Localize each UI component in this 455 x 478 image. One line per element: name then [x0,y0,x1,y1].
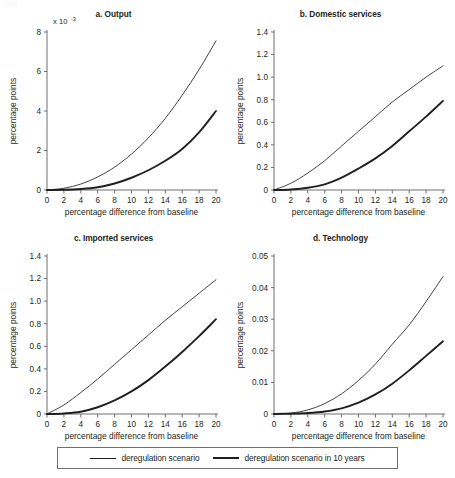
svg-text:2: 2 [62,196,67,205]
svg-text:16: 16 [405,420,415,429]
svg-text:0: 0 [272,420,277,429]
svg-text:20: 20 [211,420,221,429]
svg-text:percentage difference from bas: percentage difference from baseline [292,431,426,441]
svg-text:14: 14 [388,196,398,205]
svg-text:percentage points: percentage points [8,302,18,369]
svg-text:0.02: 0.02 [252,347,268,356]
svg-text:20: 20 [438,420,448,429]
svg-text:1.2: 1.2 [257,50,269,59]
svg-text:-3: -3 [71,16,76,22]
svg-text:8: 8 [36,28,41,37]
svg-text:6: 6 [95,196,100,205]
svg-text:1.0: 1.0 [257,73,269,82]
svg-text:4: 4 [36,107,41,116]
svg-text:1.2: 1.2 [30,274,42,283]
svg-text:4: 4 [79,196,84,205]
svg-text:x 10: x 10 [53,17,67,26]
svg-text:20: 20 [211,196,221,205]
svg-text:0: 0 [36,186,41,195]
svg-text:18: 18 [195,196,205,205]
svg-text:12: 12 [144,420,154,429]
svg-text:0.2: 0.2 [30,387,42,396]
svg-text:percentage points: percentage points [8,78,18,145]
svg-text:0: 0 [263,410,268,419]
panel-a-plot: 0246802468101214161820percentage differe… [0,4,227,226]
svg-text:0.4: 0.4 [30,365,42,374]
svg-text:0: 0 [272,196,277,205]
svg-text:12: 12 [144,196,154,205]
svg-text:16: 16 [178,196,188,205]
legend-label-0: deregulation scenario [121,453,199,463]
svg-text:0.05: 0.05 [252,252,268,261]
svg-text:18: 18 [422,420,432,429]
svg-text:6: 6 [322,420,327,429]
svg-text:0.6: 0.6 [30,342,42,351]
svg-text:percentage points: percentage points [235,78,245,145]
svg-text:8: 8 [339,196,344,205]
chart-panel-b-domestic-services: b. Domestic services 00.20.40.60.81.01.2… [227,4,454,226]
svg-text:2: 2 [62,420,67,429]
svg-text:2: 2 [289,420,294,429]
figure-root: a. Output 0246802468101214161820percenta… [0,0,455,478]
line-swatch-thin-icon [90,458,116,459]
chart-panel-a-output: a. Output 0246802468101214161820percenta… [0,4,227,226]
chart-panel-d-technology: d. Technology 00.010.020.030.040.0502468… [227,228,454,450]
svg-text:0.8: 0.8 [30,320,42,329]
svg-text:8: 8 [339,420,344,429]
svg-text:0.04: 0.04 [252,284,268,293]
svg-text:20: 20 [438,196,448,205]
panel-c-plot: 00.20.40.60.81.01.21.402468101214161820p… [0,228,227,450]
svg-text:16: 16 [405,196,415,205]
svg-text:4: 4 [79,420,84,429]
svg-text:4: 4 [306,196,311,205]
svg-text:0.03: 0.03 [252,315,268,324]
svg-text:0.6: 0.6 [257,118,269,127]
svg-text:percentage difference from bas: percentage difference from baseline [65,431,199,441]
svg-text:0.4: 0.4 [257,141,269,150]
svg-text:2: 2 [36,146,41,155]
svg-text:16: 16 [178,420,188,429]
panel-b-plot: 00.20.40.60.81.01.21.402468101214161820p… [227,4,454,226]
svg-text:10: 10 [354,196,364,205]
svg-text:8: 8 [112,420,117,429]
svg-text:10: 10 [127,420,137,429]
svg-text:percentage difference from bas: percentage difference from baseline [292,207,426,217]
legend-label-1: deregulation scenario in 10 years [244,453,364,463]
svg-text:0.8: 0.8 [257,96,269,105]
svg-text:0: 0 [45,420,50,429]
svg-text:14: 14 [161,196,171,205]
chart-legend: deregulation scenario deregulation scena… [57,447,398,469]
svg-text:percentage difference from bas: percentage difference from baseline [65,207,199,217]
svg-text:18: 18 [422,196,432,205]
svg-text:18: 18 [195,420,205,429]
svg-text:6: 6 [95,420,100,429]
svg-text:14: 14 [161,420,171,429]
line-swatch-thick-icon [213,457,239,459]
svg-text:percentage points: percentage points [235,302,245,369]
svg-text:0.2: 0.2 [257,163,269,172]
svg-text:0: 0 [45,196,50,205]
svg-text:0: 0 [263,186,268,195]
panel-grid: a. Output 0246802468101214161820percenta… [0,0,455,440]
svg-text:0.01: 0.01 [252,378,268,387]
legend-entry-deregulation-scenario-in-10-years: deregulation scenario in 10 years [213,453,364,463]
svg-text:0: 0 [36,410,41,419]
svg-text:1.0: 1.0 [30,297,42,306]
panel-d-plot: 00.010.020.030.040.0502468101214161820pe… [227,228,454,450]
svg-text:6: 6 [36,67,41,76]
svg-text:8: 8 [112,196,117,205]
legend-entry-deregulation-scenario: deregulation scenario [90,453,199,463]
svg-text:12: 12 [371,196,381,205]
svg-text:10: 10 [354,420,364,429]
svg-text:2: 2 [289,196,294,205]
svg-text:1.4: 1.4 [257,28,269,37]
svg-text:12: 12 [371,420,381,429]
svg-text:10: 10 [127,196,137,205]
svg-text:1.4: 1.4 [30,252,42,261]
chart-panel-c-imported-services: c. Imported services 00.20.40.60.81.01.2… [0,228,227,450]
svg-text:6: 6 [322,196,327,205]
svg-text:14: 14 [388,420,398,429]
svg-text:4: 4 [306,420,311,429]
